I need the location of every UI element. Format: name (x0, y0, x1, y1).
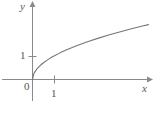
x-axis-tick-label-1: 1 (51, 88, 57, 99)
graph-figure: y x 0 1 1 (0, 0, 155, 118)
sqrt-curve (33, 25, 149, 80)
y-axis-arrow-icon (30, 1, 36, 7)
x-axis-label: x (142, 83, 147, 94)
x-axis-arrow-icon (147, 77, 153, 83)
y-axis-tick-label-1: 1 (20, 50, 26, 61)
origin-label: 0 (24, 81, 30, 92)
y-axis-label: y (20, 1, 25, 12)
